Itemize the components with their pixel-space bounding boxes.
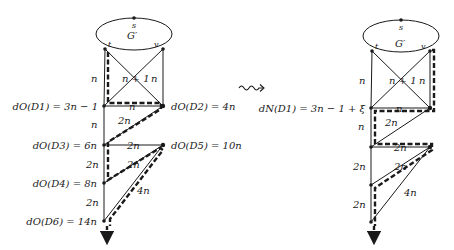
left-edge-label-d4-d6: 2n: [85, 197, 99, 208]
left-label-s: s: [132, 21, 136, 30]
figure-canvas: s G′ t v n n + 1 n n n 2n 2n 2n: [0, 0, 454, 250]
right-node-d6: [369, 220, 373, 224]
right-edge-label-v-d2: n: [419, 75, 425, 86]
right-distance-d1: dN(D1) = 3n − 1 + ξ: [259, 103, 366, 114]
right-edge-label-d3-d5: 2n: [393, 142, 407, 153]
right-node-d5: [428, 145, 432, 149]
left-edge-t-d1: [104, 49, 105, 106]
right-node-d4: [369, 183, 373, 187]
left-node-d1: [102, 104, 106, 108]
left-edge-label-d1-d3: n: [91, 119, 97, 130]
right-label-t: t: [375, 42, 379, 51]
right-label-g-prime: G′: [395, 38, 406, 49]
left-edge-label-v-d2: n: [151, 73, 157, 84]
left-node-d2: [161, 104, 165, 108]
left-diagram: s G′ t v n n + 1 n n n 2n 2n 2n: [13, 16, 242, 238]
right-node-d3: [369, 145, 373, 149]
right-edge-label-d1-d3: n: [358, 121, 364, 132]
left-distance-d2: dO(D2) = 4n: [171, 101, 235, 112]
left-edge-label-t-d1: n: [91, 73, 97, 84]
left-node-d3: [102, 143, 106, 147]
right-edge-label-cross: n + 1: [389, 75, 417, 86]
right-node-d2: [428, 106, 432, 110]
right-edge-label-d3-d4: 2n: [352, 161, 366, 172]
left-edge-label-d3-d4: 2n: [85, 159, 99, 170]
left-label-t: t: [108, 40, 112, 49]
right-edge-label-t-d1: n: [359, 75, 365, 86]
right-label-s: s: [399, 23, 403, 32]
left-distance-d4: dO(D4) = 8n: [33, 178, 97, 189]
right-node-d1: [369, 106, 373, 110]
right-diagram: s G′ t v n n + 1 n n n 2n 2n 2n: [259, 18, 439, 238]
right-edge-label-d1-d2: n: [396, 103, 402, 114]
left-label-g-prime: G′: [127, 30, 138, 41]
right-edge-label-d4-d5: 2n: [393, 161, 407, 172]
left-node-s: [132, 16, 136, 20]
right-edge-label-d6-d5: 4n: [403, 187, 417, 198]
left-node-d6: [102, 219, 106, 223]
right-edge-label-d4-d6: 2n: [352, 199, 366, 210]
left-node-d5: [161, 143, 165, 147]
left-edge-label-d4-d5: 2n: [126, 159, 140, 170]
right-edge-t-d1: [371, 51, 372, 108]
left-edge-label-d3-d5: 2n: [126, 140, 140, 151]
right-node-s: [399, 18, 403, 22]
left-edge-label-d1-d2: n: [129, 101, 135, 112]
left-edge-label-cross: n + 1: [122, 73, 150, 84]
left-edge-d6-d5: [104, 145, 163, 221]
left-node-d4: [102, 181, 106, 185]
left-edge-label-d3-d2: 2n: [117, 115, 131, 126]
right-edge-label-d3-d2: 2n: [384, 117, 398, 128]
left-distance-d5: dO(D5) = 10n: [171, 140, 242, 151]
left-distance-d3: dO(D3) = 6n: [33, 140, 97, 151]
squiggly-arrow-icon: [239, 85, 264, 92]
right-label-v: v: [421, 42, 426, 51]
left-edge-label-d6-d5: 4n: [136, 185, 150, 196]
left-label-v: v: [154, 40, 159, 49]
left-distance-d6: dO(D6) = 14n: [26, 216, 97, 227]
left-distance-d1: dO(D1) = 3n − 1: [13, 101, 98, 112]
